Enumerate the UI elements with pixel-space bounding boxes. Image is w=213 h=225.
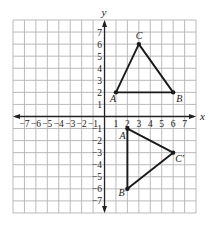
x-tick-label: 6 <box>171 119 176 129</box>
y-tick-label: 4 <box>97 64 102 74</box>
y-axis-label: y <box>101 6 107 18</box>
y-tick-label: −2 <box>92 136 102 146</box>
y-tick-label: 5 <box>97 52 102 62</box>
y-axis-down-arrow-icon <box>102 206 107 213</box>
y-tick-label: −7 <box>92 196 102 206</box>
vertex-point <box>137 42 141 46</box>
x-tick-label: −7 <box>19 119 29 129</box>
coordinate-grid-svg: −7−6−5−4−3−2−112345677654321−1−2−3−4−5−6… <box>0 0 213 225</box>
x-axis-left-arrow-icon <box>13 114 20 119</box>
vertex-point <box>171 90 175 94</box>
y-tick-label: 1 <box>97 100 102 110</box>
y-tick-label: −5 <box>92 172 102 182</box>
axes <box>13 20 196 213</box>
x-tick-label: 5 <box>159 119 164 129</box>
vertex-label: B′ <box>118 187 127 198</box>
x-tick-label: −4 <box>54 119 64 129</box>
y-tick-label: −1 <box>92 124 102 134</box>
vertex-label: C′ <box>175 153 185 164</box>
x-axis-label: x <box>199 110 205 122</box>
y-tick-label: 7 <box>97 28 102 38</box>
y-tick-label: −6 <box>92 184 102 194</box>
x-tick-label: 7 <box>182 119 187 129</box>
y-tick-label: 3 <box>97 76 102 86</box>
vertex-label: B <box>176 93 182 104</box>
x-tick-label: 1 <box>114 119 119 129</box>
vertex-label: A′ <box>118 130 128 141</box>
x-tick-label: 4 <box>148 119 153 129</box>
x-tick-label: −2 <box>77 119 87 129</box>
coordinate-plane-diagram: −7−6−5−4−3−2−112345677654321−1−2−3−4−5−6… <box>0 0 213 225</box>
vertex-label: A <box>109 93 117 104</box>
y-tick-label: −3 <box>92 148 102 158</box>
vertex-label: C <box>136 30 143 41</box>
x-tick-label: −5 <box>42 119 52 129</box>
x-tick-label: −3 <box>65 119 75 129</box>
x-axis-right-arrow-icon <box>189 114 196 119</box>
triangle-ABC: ABC <box>109 30 182 104</box>
triangle-A-prime-B-prime-C-prime: A′C′B′ <box>118 126 184 198</box>
y-tick-label: −4 <box>92 160 102 170</box>
x-tick-label: −6 <box>31 119 41 129</box>
y-tick-label: 2 <box>97 88 102 98</box>
y-axis-up-arrow-icon <box>102 20 107 27</box>
y-tick-label: 6 <box>97 40 102 50</box>
x-tick-label: 3 <box>136 119 141 129</box>
